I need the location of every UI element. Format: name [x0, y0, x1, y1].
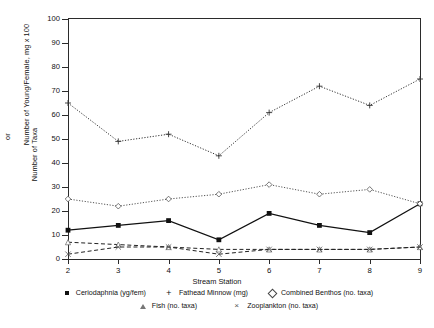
diamond-marker-icon — [115, 203, 121, 209]
chart-figure: Number of Young/Female, mg x 100 or Numb… — [0, 0, 434, 328]
series-line — [68, 242, 420, 249]
square-marker-icon — [216, 237, 221, 242]
square-marker-icon — [66, 228, 71, 233]
legend-item-ceriodaphnia: Ceriodaphnia (yg/fem) — [61, 288, 146, 298]
series-fathead — [65, 76, 423, 159]
square-marker-icon — [166, 218, 171, 223]
legend-item-fathead-minnow: + Fathead Minnow (mg) — [164, 288, 248, 298]
legend-item-fish: Fish (no. taxa) — [137, 301, 197, 311]
series-line — [68, 185, 420, 207]
legend-label: Zooplankton (no. taxa) — [247, 302, 318, 310]
plus-marker-icon — [417, 76, 423, 82]
diamond-marker-icon — [166, 196, 172, 202]
series-line — [68, 79, 420, 156]
legend-label: Ceriodaphnia (yg/fem) — [76, 289, 146, 297]
diamond-marker-icon — [65, 196, 71, 202]
square-marker-icon — [267, 211, 272, 216]
plus-marker-icon — [367, 102, 373, 108]
square-marker-icon — [61, 288, 74, 298]
diamond-marker-icon — [266, 182, 272, 188]
plus-marker-icon — [115, 138, 121, 144]
series-line — [68, 247, 420, 254]
plus-marker-icon — [166, 131, 172, 137]
diamond-marker-icon — [266, 288, 279, 298]
square-marker-icon — [116, 223, 121, 228]
diamond-marker-icon — [216, 191, 222, 197]
series-line — [68, 204, 420, 240]
series-combined — [65, 182, 423, 209]
legend-label: Fathead Minnow (mg) — [179, 289, 248, 297]
plus-marker-icon — [266, 110, 272, 116]
diamond-marker-icon — [317, 191, 323, 197]
chart-legend: Ceriodaphnia (yg/fem) + Fathead Minnow (… — [0, 288, 434, 311]
legend-item-combined-benthos: Combined Benthos (no. taxa) — [266, 288, 373, 298]
plus-marker-icon — [316, 83, 322, 89]
plus-marker-icon: + — [164, 288, 177, 298]
legend-label: Fish (no. taxa) — [152, 302, 197, 310]
legend-label: Combined Benthos (no. taxa) — [281, 289, 373, 297]
x-marker-icon: × — [232, 301, 245, 311]
square-marker-icon — [317, 223, 322, 228]
legend-item-zooplankton: × Zooplankton (no. taxa) — [232, 301, 318, 311]
diamond-marker-icon — [367, 187, 373, 193]
legend-row-1: Ceriodaphnia (yg/fem) + Fathead Minnow (… — [0, 288, 434, 298]
triangle-marker-icon — [137, 301, 150, 311]
legend-row-2: Fish (no. taxa) × Zooplankton (no. taxa) — [0, 301, 434, 311]
x-axis-label: Stream Station — [0, 277, 434, 286]
square-marker-icon — [367, 230, 372, 235]
